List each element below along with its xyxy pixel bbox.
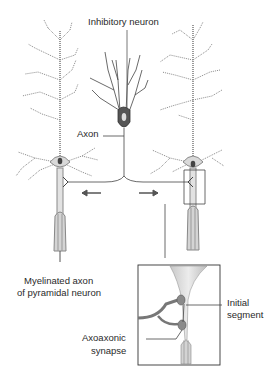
inhibitory-neuron: [63, 30, 193, 187]
initial-segment-label-1: Initial: [227, 297, 249, 308]
initial-segment-label-2: segment: [227, 309, 263, 320]
axon-label: Axon: [77, 128, 99, 139]
direction-arrows: [82, 190, 158, 196]
right-pyramidal-neuron: [150, 22, 224, 250]
inhibitory-neuron-label: Inhibitory neuron: [88, 16, 159, 27]
axoaxonic-synapse-label-2: synapse: [91, 345, 126, 356]
axoaxonic-synapse-label-1: Axoaxonic: [82, 332, 126, 343]
left-pyramidal-neuron: [16, 20, 98, 262]
initial-segment-inset: [138, 265, 220, 365]
myelinated-axon-label-1: Myelinated axon: [24, 275, 93, 286]
myelinated-axon-label-2: of pyramidal neuron: [17, 287, 101, 298]
